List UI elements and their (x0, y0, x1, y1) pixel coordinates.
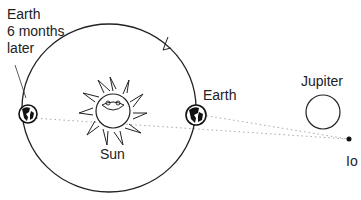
earth-label: Earth (203, 87, 236, 103)
earth-later-label: Earth 6 months later (7, 6, 65, 57)
earth-later-icon (19, 105, 37, 123)
earth-later-label-line2: 6 months (7, 23, 65, 40)
io-icon (347, 137, 352, 142)
sun-label: Sun (100, 146, 125, 162)
earth-later-leader-line (15, 65, 26, 98)
earth-later-label-line1: Earth (7, 6, 65, 23)
earth-later-label-line3: later (7, 40, 65, 57)
jupiter-label: Jupiter (301, 73, 343, 89)
jupiter-icon (306, 95, 340, 129)
sun-icon (79, 77, 147, 145)
io-label: Io (346, 153, 358, 169)
earth-icon (186, 105, 206, 125)
